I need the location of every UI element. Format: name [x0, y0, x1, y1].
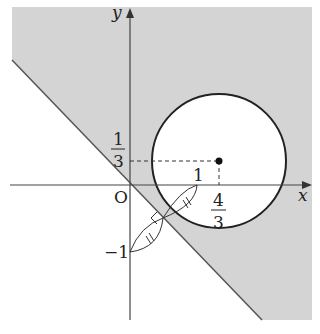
label-minus-one-y: −1	[104, 242, 129, 262]
frac-1-3-numerator: 1	[113, 129, 124, 149]
y-axis-label: y	[111, 2, 122, 22]
diagram: y x O 1 −1 1 3 4 3	[0, 0, 320, 334]
frac-4-3-denominator: 3	[213, 212, 224, 232]
label-one-x: 1	[193, 165, 204, 185]
x-axis-label: x	[298, 185, 308, 205]
frac-4-3-numerator: 4	[213, 190, 224, 210]
frac-1-3-denominator: 3	[113, 151, 124, 171]
arc-from-minus-1	[130, 218, 163, 252]
center-point	[216, 158, 223, 165]
origin-label: O	[114, 187, 128, 207]
